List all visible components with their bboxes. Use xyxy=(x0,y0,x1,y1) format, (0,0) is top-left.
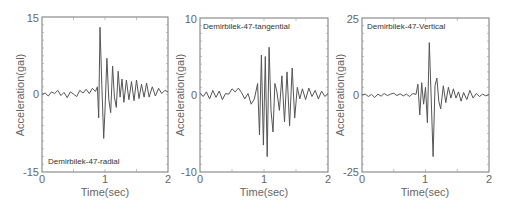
panel-title: Demirbilek-47-radial xyxy=(48,157,120,166)
y-tick-zero: 0 xyxy=(353,89,359,101)
y-tick-zero: 0 xyxy=(191,89,197,101)
y-axis-label: Acceleration(gal) xyxy=(334,54,346,137)
x-tick-2: 2 xyxy=(486,173,492,185)
y-tick-max: 15 xyxy=(27,12,39,24)
y-tick-max: 25 xyxy=(347,13,359,25)
x-tick-0: 0 xyxy=(197,173,203,185)
panel-title: Demirbilek-47-Vertical xyxy=(367,22,445,31)
y-tick-zero: 0 xyxy=(33,88,39,100)
waveform-vertical xyxy=(362,43,489,157)
waveform-tangential xyxy=(200,47,328,156)
waveform-radial xyxy=(42,27,168,138)
x-tick-0: 0 xyxy=(359,173,365,185)
x-tick-0: 0 xyxy=(39,173,45,185)
y-tick-min: -15 xyxy=(23,166,39,178)
y-axis-label: Acceleration(gal) xyxy=(14,54,26,137)
panel-vertical: 25 0 -25 0 1 2 Time(sec) Acceleration(ga… xyxy=(334,13,492,198)
y-tick-max: 10 xyxy=(185,13,197,25)
x-axis-label: Time(sec) xyxy=(240,186,288,198)
panel-radial: 15 0 -15 0 1 2 Time(sec) Acceleration(ga… xyxy=(14,12,171,198)
x-tick-1: 1 xyxy=(422,173,428,185)
x-tick-1: 1 xyxy=(102,173,108,185)
x-tick-1: 1 xyxy=(261,173,267,185)
y-tick-min: -25 xyxy=(343,166,359,178)
panel-title: Demirbilek-47-tangential xyxy=(203,22,290,31)
figure: 15 0 -15 0 1 2 Time(sec) Acceleration(ga… xyxy=(0,0,507,210)
x-tick-2: 2 xyxy=(325,173,331,185)
y-tick-min: -10 xyxy=(181,166,197,178)
x-axis-label: Time(sec) xyxy=(401,186,449,198)
panel-tangential: 10 0 -10 0 1 2 Time(sec) Acceleration(ga… xyxy=(174,13,331,198)
x-axis-label: Time(sec) xyxy=(81,186,129,198)
y-axis-label: Acceleration(gal) xyxy=(174,54,186,137)
x-tick-2: 2 xyxy=(165,173,171,185)
